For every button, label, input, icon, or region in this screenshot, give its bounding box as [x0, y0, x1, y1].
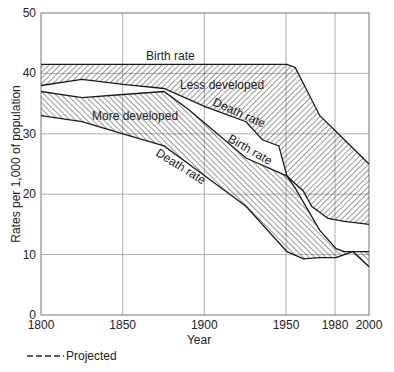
y-axis-title: Rates per 1,000 of population	[9, 85, 23, 242]
x-tick-1900: 1900	[191, 318, 218, 332]
x-tick-2000: 2000	[356, 318, 383, 332]
annot-less-developed: Less developed	[180, 78, 264, 92]
x-axis-title: Year	[187, 333, 211, 347]
legend-projected-label: Projected	[66, 349, 117, 363]
x-tick-1850: 1850	[109, 318, 136, 332]
y-tick-40: 40	[23, 66, 37, 80]
x-axis-ticks: 1800 1850 1900 1950 1980 2000	[28, 318, 383, 332]
demographic-transition-chart: 0 10 20 30 40 50 1800 1850 1900 1950 198…	[0, 0, 394, 372]
legend: Projected	[27, 349, 117, 363]
annot-more-developed: More developed	[92, 109, 178, 123]
annot-birth-rate-less-developed: Birth rate	[146, 49, 195, 63]
y-tick-20: 20	[23, 187, 37, 201]
y-axis-ticks: 0 10 20 30 40 50	[23, 6, 37, 322]
bands	[41, 64, 369, 266]
y-tick-10: 10	[23, 248, 37, 262]
y-tick-50: 50	[23, 6, 37, 20]
x-tick-1800: 1800	[28, 318, 55, 332]
y-tick-30: 30	[23, 127, 37, 141]
x-tick-1980: 1980	[322, 318, 349, 332]
x-tick-1950: 1950	[273, 318, 300, 332]
